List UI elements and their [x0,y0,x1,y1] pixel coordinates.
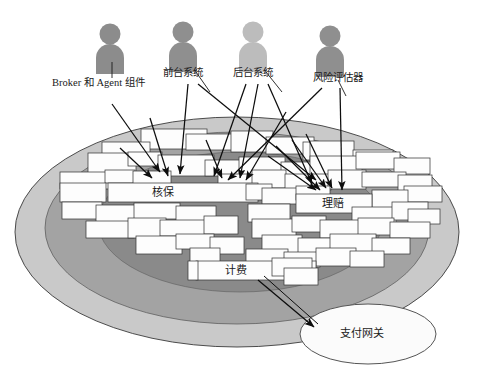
component-box [128,152,162,166]
actor-label-broker-agent: Broker 和 Agent 组件 [52,78,145,89]
person-icon [173,22,194,43]
domain-label-billing: 计费 [225,265,247,276]
payment-gateway-label: 支付网关 [340,328,384,339]
domain-label-claims: 理赔 [322,198,344,209]
component-box [358,218,394,235]
component-box [186,134,238,150]
component-box [134,203,180,219]
actor-back-office[interactable] [239,22,267,73]
actor-label-leaders [112,62,346,96]
component-box [60,183,106,202]
component-box [204,216,238,234]
component-box [188,261,198,280]
architecture-diagram [0,0,485,380]
component-box [404,186,442,202]
person-icon [100,24,121,45]
component-box [160,220,210,236]
component-box [105,170,135,183]
component-box [86,221,134,238]
person-icon [243,22,264,43]
actor-risk-assessor[interactable] [316,26,344,78]
person-icon [96,44,124,74]
actor-broker-agent[interactable] [96,24,124,75]
domain-label-underwriting: 核保 [152,187,174,198]
domain-box-underwriting [108,183,258,202]
component-box [190,248,220,262]
component-box [176,234,214,249]
actor-front-office[interactable] [169,22,197,73]
component-box [356,152,400,169]
component-box [394,158,430,174]
actor-label-risk-assessor: 风险评估器 [313,73,363,84]
component-box [390,222,430,238]
actor-label-back-office: 后台系统 [233,68,273,79]
person-icon [320,26,341,47]
component-box [136,236,182,254]
component-box [328,170,366,189]
component-box [284,268,318,285]
actor-figures [96,22,344,78]
component-box [350,251,384,267]
actor-label-front-office: 前台系统 [163,68,203,79]
